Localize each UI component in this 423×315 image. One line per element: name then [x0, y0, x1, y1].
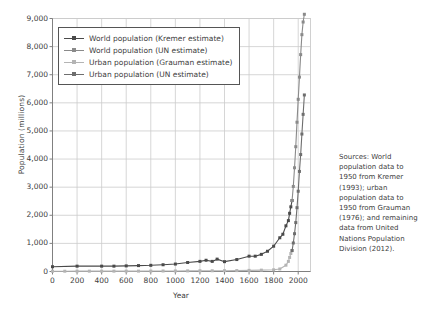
chart-legend: World population (Kremer estimate)World …: [58, 27, 240, 85]
y-axis-title: Population (millions): [17, 55, 26, 215]
sources-note: Sources: World population data to 1950 f…: [339, 152, 421, 254]
population-chart-figure: 01,0002,0003,0004,0005,0006,0007,0008,00…: [0, 0, 423, 315]
x-tick-label: 2000: [278, 276, 318, 285]
legend-swatch-icon: [63, 69, 85, 79]
legend-item: World population (UN estimate): [63, 44, 233, 56]
legend-swatch-icon: [63, 45, 85, 55]
legend-item: Urban population (UN estimate): [63, 68, 233, 80]
legend-item-label: World population (Kremer estimate): [89, 34, 224, 43]
legend-item-label: Urban population (UN estimate): [89, 70, 209, 79]
legend-swatch-icon: [63, 57, 85, 67]
legend-swatch-icon: [63, 33, 85, 43]
legend-item-label: World population (UN estimate): [89, 46, 208, 55]
legend-item-label: Urban population (Grauman estimate): [89, 58, 233, 67]
x-axis-title: Year: [52, 291, 310, 300]
legend-item: Urban population (Grauman estimate): [63, 56, 233, 68]
legend-item: World population (Kremer estimate): [63, 32, 233, 44]
